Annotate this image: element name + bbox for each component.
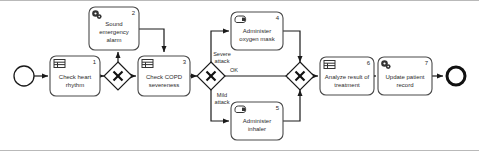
end-event[interactable] [447, 67, 465, 85]
flow-label-severe-attack-line2: attack [215, 58, 230, 64]
task-5-label-line1: Administer [243, 118, 271, 124]
task-2-sound-emergency-alarm[interactable]: 2 Sound emergency alarm [89, 7, 139, 50]
start-event[interactable] [14, 66, 34, 86]
task-7-label-line1: Update patient [385, 74, 424, 80]
task-4-label-line2: oxygen mask [239, 36, 275, 42]
flow-label-severe-attack-line1: Severe [213, 51, 231, 57]
flow-label-mild-attack-line1: Mild [217, 92, 227, 98]
flow-label-mild-attack-line2: attack [215, 99, 230, 105]
task-6-label-line2: treatment [334, 82, 360, 88]
task-2-label-line1: Sound [105, 21, 122, 27]
flow-task4-to-gateway3 [283, 31, 300, 62]
task-4-label-line1: Administer [243, 28, 271, 34]
task-1-label-line2: rhythm [66, 82, 84, 88]
task-1-label-line1: Check heart [59, 74, 92, 80]
gateway-heart-rhythm-split[interactable] [104, 62, 132, 90]
gateway-treatment-merge[interactable] [286, 62, 314, 90]
task-3-check-copd-severeness[interactable]: 3 Check COPD severeness [138, 56, 190, 96]
task-7-label-line2: record [396, 82, 413, 88]
task-2-label-line2: emergency [99, 29, 129, 35]
task-3-label-line1: Check COPD [146, 74, 183, 80]
task-5-label-line2: inhaler [248, 126, 266, 132]
flow-task5-to-gateway3 [283, 90, 300, 121]
flow-task2-to-task3 [139, 29, 164, 52]
task-6-analyze-result-of-treatment[interactable]: 6 Analyze result of treatment [320, 57, 374, 95]
task-4-administer-oxygen-mask[interactable]: 4 Administer oxygen mask [231, 12, 283, 50]
flow-label-ok: OK [230, 67, 238, 73]
task-6-label-line1: Analyze result of [325, 74, 370, 80]
task-3-label-line2: severeness [149, 82, 180, 88]
bpmn-diagram-canvas: 1 Check heart rhythm 2 Sound emergency a… [0, 0, 479, 151]
task-5-administer-inhaler[interactable]: 5 Administer inhaler [231, 102, 283, 140]
task-2-label-line3: alarm [106, 37, 121, 43]
bpmn-diagram-svg: 1 Check heart rhythm 2 Sound emergency a… [0, 1, 479, 151]
task-7-update-patient-record[interactable]: 7 Update patient record [378, 57, 432, 95]
task-1-check-heart-rhythm[interactable]: 1 Check heart rhythm [50, 56, 100, 96]
gateway-severity-split[interactable] [197, 62, 225, 90]
